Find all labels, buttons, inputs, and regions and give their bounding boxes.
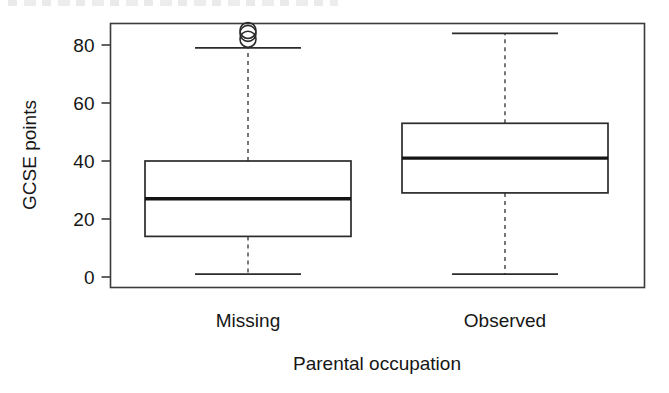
y-tick-label: 40 xyxy=(73,151,94,172)
x-tick-label-observed: Observed xyxy=(464,310,546,331)
y-tick-label: 80 xyxy=(73,35,94,56)
y-tick-label: 20 xyxy=(73,209,94,230)
y-axis-title: GCSE points xyxy=(19,100,40,210)
y-tick-label: 60 xyxy=(73,93,94,114)
x-axis: MissingObserved xyxy=(216,310,546,331)
y-tick-label: 0 xyxy=(84,267,95,288)
box-series xyxy=(145,23,608,275)
x-axis-title: Parental occupation xyxy=(293,353,461,374)
boxplot-canvas: 020406080 MissingObserved GCSE points Pa… xyxy=(0,0,669,393)
x-tick-label-missing: Missing xyxy=(216,310,280,331)
box-group-missing xyxy=(145,23,351,275)
box-group-observed xyxy=(402,33,608,274)
y-axis: 020406080 xyxy=(73,35,110,288)
boxplot-figure: 020406080 MissingObserved GCSE points Pa… xyxy=(0,0,669,393)
